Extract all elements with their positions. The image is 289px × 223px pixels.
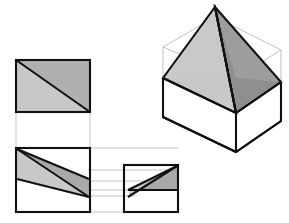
projection-figure — [0, 0, 289, 223]
top-view-group — [16, 60, 90, 112]
side-view-group — [124, 165, 178, 212]
front-view-group — [16, 148, 90, 212]
isometric-solid-group — [163, 7, 281, 152]
technical-drawing-canvas — [0, 0, 289, 223]
